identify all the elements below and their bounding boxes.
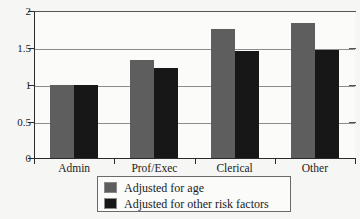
legend-item-adjusted-for-other-risk-factors: Adjusted for other risk factors — [102, 196, 286, 211]
y-axis-tick-label: 0 — [26, 153, 32, 164]
legend-swatch-icon-risk — [104, 198, 117, 209]
x-axis-tick-mark — [355, 158, 356, 164]
y-axis-tick-mark-right — [349, 48, 356, 49]
x-axis-tick-mark — [195, 158, 196, 164]
bar-clerical-age — [211, 29, 235, 158]
bar-prof-exec-age — [130, 60, 154, 158]
y-axis-tick-label: 1.5 — [17, 42, 31, 53]
y-axis-tick-label: 0.5 — [17, 116, 31, 127]
bar-other-age — [291, 23, 315, 159]
x-axis-tick-mark — [34, 158, 35, 164]
y-axis-tick-mark-right — [349, 122, 356, 123]
y-axis-tick-mark-right — [349, 85, 356, 86]
legend-item-adjusted-for-age: Adjusted for age — [102, 180, 286, 195]
y-axis-tick-label: 2 — [26, 6, 32, 17]
x-axis-label-prof-exec: Prof/Exec — [131, 162, 177, 175]
y-axis-tick-mark-right — [349, 11, 356, 12]
x-axis-label-clerical: Clerical — [216, 162, 252, 175]
x-axis-label-other: Other — [302, 162, 328, 175]
y-axis-tick-label: 1 — [26, 79, 32, 90]
legend-swatch-icon-age — [104, 182, 117, 193]
legend-label-age: Adjusted for age — [124, 182, 204, 194]
x-axis-label-admin: Admin — [58, 162, 90, 175]
x-axis-tick-mark — [114, 158, 115, 164]
bar-chart: 00.511.52AdminProf/ExecClericalOther Adj… — [0, 0, 360, 219]
bar-other-risk — [315, 50, 339, 158]
bar-admin-risk — [74, 85, 98, 159]
bar-admin-age — [50, 85, 74, 159]
legend: Adjusted for age Adjusted for other risk… — [97, 176, 291, 212]
legend-label-risk: Adjusted for other risk factors — [124, 198, 269, 210]
bar-prof-exec-risk — [154, 68, 178, 158]
x-axis-tick-mark — [275, 158, 276, 164]
bar-clerical-risk — [235, 51, 259, 159]
